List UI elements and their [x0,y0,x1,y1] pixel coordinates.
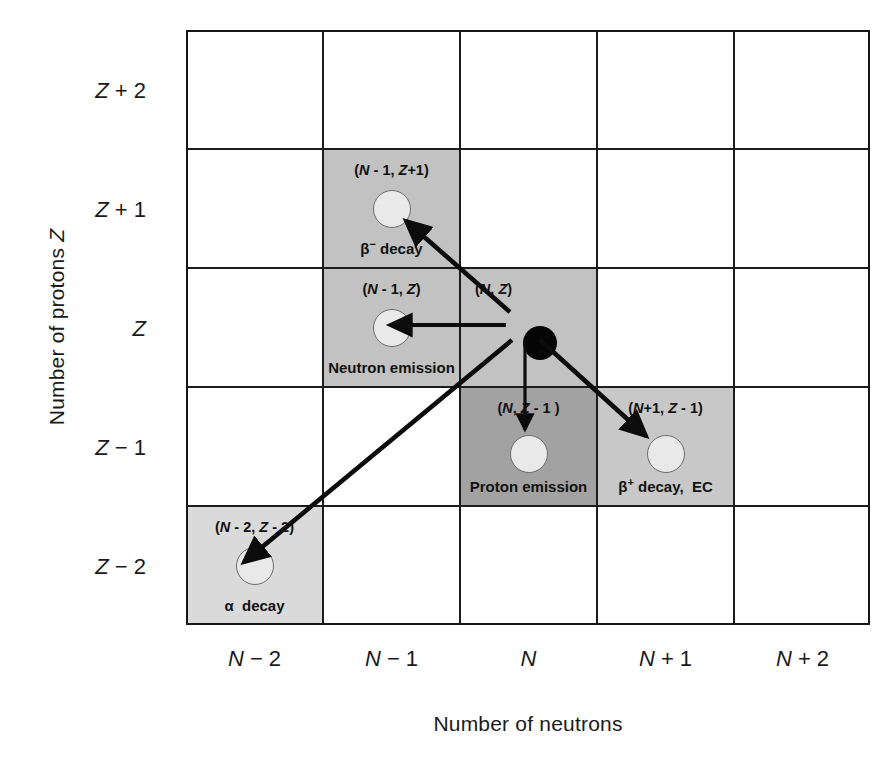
grid-cell-r0c1 [323,30,460,149]
cell-parent-nucleus [523,326,557,360]
grid-cell-r0c2 [460,30,597,149]
cell-neutron-emission-mode: Neutron emission [324,359,459,376]
grid-cell-r4c3 [597,506,734,625]
cell-proton-emission-nucleus [510,435,548,473]
nuclide-grid: (N - 1, Z+1) β− decay (N - 1, Z) Neutron… [186,30,870,625]
x-tick-n-plus-1: N + 1 [597,646,734,672]
y-tick-z-plus-1: Z + 1 [0,197,146,223]
cell-beta-minus-coord: (N - 1, Z+1) [324,162,459,178]
x-axis-title: Number of neutrons [186,712,870,736]
cell-proton-emission: (N, Z - 1 ) Proton emission [460,387,597,506]
grid-cell-r2c4 [734,268,870,387]
cell-beta-minus-decay: (N - 1, Z+1) β− decay [323,149,460,268]
x-tick-n-minus-1: N − 1 [323,646,460,672]
grid-cell-r4c4 [734,506,870,625]
y-tick-z-minus-2: Z − 2 [0,554,146,580]
cell-neutron-emission-coord: (N - 1, Z) [324,281,459,297]
cell-alpha-nucleus [236,547,274,585]
cell-beta-minus-mode: β− decay [324,238,459,257]
grid-cell-r2c0 [186,268,323,387]
x-tick-n-minus-2: N − 2 [186,646,323,672]
grid-cell-r3c1 [323,387,460,506]
grid-cell-r1c0 [186,149,323,268]
cell-beta-plus-decay: (N+1, Z - 1) β+ decay, EC [597,387,734,506]
grid-cell-r3c0 [186,387,323,506]
cell-neutron-emission: (N - 1, Z) Neutron emission [323,268,460,387]
cell-parent-nuclide: (N, Z) [460,268,597,387]
y-tick-z-minus-1: Z − 1 [0,435,146,461]
cell-beta-minus-nucleus [373,190,411,228]
cell-parent-coord: (N, Z) [475,281,512,297]
cell-alpha-mode: α decay [187,597,322,614]
y-tick-z: Z [0,316,146,342]
cell-alpha-decay: (N - 2, Z - 2) α decay [186,506,323,625]
grid-cell-r0c0 [186,30,323,149]
cell-neutron-emission-nucleus [373,309,411,347]
grid-cell-r1c2 [460,149,597,268]
decay-modes-figure: Number of protons Z Number of neutrons Z… [0,0,894,766]
cell-beta-plus-mode: β+ decay, EC [598,476,733,495]
grid-cell-r4c1 [323,506,460,625]
y-tick-z-plus-2: Z + 2 [0,78,146,104]
cell-alpha-coord: (N - 2, Z - 2) [187,519,322,535]
cell-proton-emission-coord: (N, Z - 1 ) [461,400,596,416]
x-tick-n-plus-2: N + 2 [734,646,871,672]
grid-cell-r2c3 [597,268,734,387]
cell-beta-plus-coord: (N+1, Z - 1) [598,400,733,416]
cell-proton-emission-mode: Proton emission [461,478,596,495]
grid-cell-r1c4 [734,149,870,268]
grid-cell-r0c3 [597,30,734,149]
x-tick-n: N [460,646,597,672]
grid-cell-r4c2 [460,506,597,625]
grid-cell-r1c3 [597,149,734,268]
grid-cell-r3c4 [734,387,870,506]
grid-cell-r0c4 [734,30,870,149]
cell-beta-plus-nucleus [647,435,685,473]
